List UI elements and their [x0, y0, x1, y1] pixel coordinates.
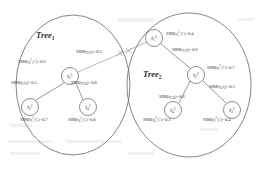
sim-fn: SIM	[18, 59, 26, 64]
sim-value: 0.6	[40, 59, 46, 64]
tree2-title: Tree2	[143, 70, 161, 79]
arg-sub2: 3	[224, 86, 226, 90]
arg-sub2: 3	[26, 82, 28, 86]
node-sup: 2	[233, 106, 235, 110]
tree1-title-text: Tree	[36, 30, 52, 40]
label-sim-cross-tree: SIM(t2,t1)=0.3	[76, 50, 102, 55]
sim-value: 0.3	[165, 117, 171, 122]
sim-fn: SIM	[68, 117, 76, 122]
arg-sup: 2	[178, 30, 180, 34]
node-sup: 2	[197, 71, 199, 75]
label-sim-t3-1-C: SIM(t31,C)=0.7	[20, 118, 48, 123]
edge-t2-t4-tree2	[179, 81, 190, 103]
sim-fn: SIM	[203, 117, 211, 122]
arg-sup: 1	[32, 116, 34, 120]
sim-value: 0.8	[90, 117, 96, 122]
sim-value: 0.4	[225, 117, 231, 122]
label-sim-t2-1-C: SIM(t21,C)=0.6	[18, 60, 46, 65]
sim-fn: SIM	[166, 31, 174, 36]
sim-value: 0.6	[179, 94, 185, 99]
arg-sup: 1	[80, 116, 82, 120]
label-sim-t2-t3-tree2: SIM(t2,t3)=0.5	[209, 85, 235, 90]
arg-sub2: 4	[86, 82, 88, 86]
arg-sub2: 1	[91, 51, 93, 55]
label-sim-t3-2-C: SIM(t32,C)=0.4	[203, 118, 231, 123]
figure-canvas: Tree1 Tree2 t21 t31 t41 t12 t22 t42 t32 …	[0, 0, 267, 169]
sim-fn: SIM	[76, 49, 84, 54]
sim-value: 0.4	[188, 31, 194, 36]
node-label-t2-2: t22	[193, 72, 198, 79]
label-sim-t1-2-C: SIM(t12,C)=0.4	[166, 32, 194, 37]
node-sup: 1	[71, 72, 73, 76]
node-label-t3-1: t31	[27, 104, 32, 111]
node-label-t3-2: t32	[229, 107, 234, 114]
edge-cross-tree	[78, 42, 147, 72]
label-sim-t4-2-C: SIM(t42,C)=0.3	[143, 118, 171, 123]
node-sup: 1	[89, 103, 91, 107]
node-label-t2-1: t21	[67, 73, 72, 80]
sim-value: 0.7	[42, 117, 48, 122]
arg-sub2: 4	[174, 96, 176, 100]
node-sup: 1	[31, 103, 33, 107]
sim-fn: SIM	[159, 94, 167, 99]
node-sup: 2	[155, 34, 157, 38]
node-label-t4-1: t41	[85, 104, 90, 111]
node-label-t4-2: t42	[170, 107, 175, 114]
arg-sup: 2	[219, 64, 221, 68]
label-sim-t2-t3-tree1: SIM(t2,t3)=0.5	[11, 81, 37, 86]
arg-sub2: 2	[187, 49, 189, 53]
sim-fn: SIM	[71, 80, 79, 85]
sim-value: 0.5	[229, 84, 235, 89]
arg-sup: 1	[30, 58, 32, 62]
sim-fn: SIM	[20, 117, 28, 122]
sim-value: 0.7	[229, 65, 235, 70]
label-sim-t2-t4-tree1: SIM(t2,t4)=0.8	[71, 81, 97, 86]
label-sim-t2-t4-tree2: SIM(t2,t4)=0.6	[159, 95, 185, 100]
arg-sup: 2	[215, 116, 217, 120]
edge-t2-t3-tree1	[36, 83, 64, 100]
sim-value: 0.5	[31, 80, 37, 85]
sim-value: 0.3	[96, 49, 102, 54]
arg-sup: 2	[155, 116, 157, 120]
sim-fn: SIM	[209, 84, 217, 89]
sim-value: 0.8	[91, 80, 97, 85]
sim-fn: SIM	[11, 80, 19, 85]
node-sup: 2	[174, 106, 176, 110]
label-sim-t4-1-C: SIM(t41,C)=0.8	[68, 118, 96, 123]
label-sim-t1-t2-tree2: SIM(t1,t2)=0.6	[172, 48, 198, 53]
sim-fn: SIM	[172, 47, 180, 52]
sim-value: 0.6	[192, 47, 198, 52]
tree2-title-text: Tree	[143, 69, 159, 79]
label-sim-t2-2-C: SIM(t22,C)=0.7	[207, 66, 235, 71]
sim-fn: SIM	[143, 117, 151, 122]
tree1-title: Tree1	[36, 31, 54, 40]
sim-fn: SIM	[207, 65, 215, 70]
node-label-t1-2: t12	[151, 35, 156, 42]
